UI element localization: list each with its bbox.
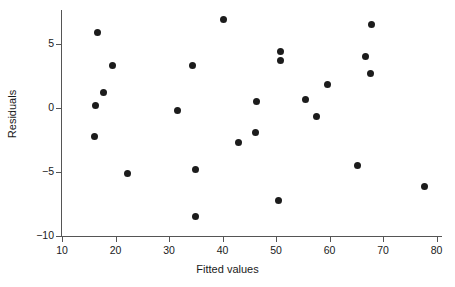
data-point bbox=[253, 98, 260, 105]
x-tick-label: 70 bbox=[363, 245, 403, 256]
x-tick-mark bbox=[169, 237, 170, 242]
residual-scatter-plot: 50−5−10 1020304050607080 Fitted values R… bbox=[0, 0, 455, 287]
data-point bbox=[302, 96, 309, 103]
data-point bbox=[235, 139, 242, 146]
x-tick-label: 10 bbox=[42, 245, 82, 256]
x-tick-mark bbox=[62, 237, 63, 242]
y-tick-mark bbox=[56, 108, 61, 109]
data-point bbox=[362, 53, 369, 60]
data-point bbox=[277, 57, 284, 64]
data-point bbox=[368, 21, 375, 28]
x-tick-label: 60 bbox=[310, 245, 350, 256]
x-tick-mark bbox=[223, 237, 224, 242]
y-tick-mark bbox=[56, 172, 61, 173]
x-tick-label: 50 bbox=[256, 245, 296, 256]
y-axis-title: Residuals bbox=[6, 54, 18, 174]
data-point bbox=[92, 102, 99, 109]
x-tick-mark bbox=[383, 237, 384, 242]
data-point bbox=[277, 48, 284, 55]
y-tick-mark bbox=[56, 44, 61, 45]
data-point bbox=[367, 70, 374, 77]
data-point bbox=[189, 62, 196, 69]
data-point bbox=[421, 183, 428, 190]
x-tick-label: 80 bbox=[417, 245, 455, 256]
y-tick-label: −5 bbox=[14, 166, 54, 177]
data-point bbox=[324, 81, 331, 88]
data-point bbox=[220, 16, 227, 23]
x-axis-title: Fitted values bbox=[0, 263, 455, 275]
y-axis-line bbox=[61, 10, 62, 237]
x-tick-mark bbox=[330, 237, 331, 242]
data-point bbox=[124, 170, 131, 177]
x-tick-label: 40 bbox=[203, 245, 243, 256]
x-axis-line bbox=[61, 236, 442, 237]
data-point bbox=[91, 133, 98, 140]
y-tick-label: −10 bbox=[14, 230, 54, 241]
data-point bbox=[192, 166, 199, 173]
y-tick-label: 0 bbox=[14, 102, 54, 113]
data-point bbox=[252, 129, 259, 136]
data-point bbox=[313, 113, 320, 120]
x-tick-mark bbox=[116, 237, 117, 242]
data-point bbox=[354, 162, 361, 169]
y-tick-mark bbox=[56, 236, 61, 237]
data-point bbox=[192, 213, 199, 220]
data-point bbox=[100, 89, 107, 96]
x-tick-label: 30 bbox=[149, 245, 189, 256]
x-tick-label: 20 bbox=[96, 245, 136, 256]
data-point bbox=[94, 29, 101, 36]
x-tick-mark bbox=[437, 237, 438, 242]
data-point bbox=[275, 197, 282, 204]
data-point bbox=[174, 107, 181, 114]
x-tick-mark bbox=[276, 237, 277, 242]
y-tick-label: 5 bbox=[14, 38, 54, 49]
data-point bbox=[109, 62, 116, 69]
